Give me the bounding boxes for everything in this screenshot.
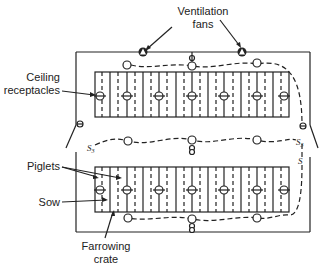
label-line: Farrowing — [78, 240, 134, 253]
left-door — [66, 125, 76, 148]
label-line: crate — [78, 253, 134, 266]
fan-icon — [238, 48, 247, 57]
switch-s3-right: S3 — [296, 137, 304, 148]
label-line: Ventilation — [170, 5, 236, 18]
label-line: receptacles — [0, 84, 60, 97]
farrowing-house-diagram: S3 S3 S Ventilation fans Ceiling recepta… — [0, 0, 327, 279]
ceiling-receptacles-top — [94, 92, 290, 100]
label-line: fans — [170, 18, 236, 31]
farrowing-crate-label: Farrowing crate — [78, 240, 134, 266]
floor-plan-drawing: S3 S3 S — [0, 0, 327, 279]
right-door — [310, 125, 318, 148]
switch-s3-left: S3 — [87, 143, 95, 154]
fan-icon — [139, 48, 148, 57]
label-line: Ceiling — [0, 71, 60, 84]
switch-s-single: S — [298, 156, 303, 166]
ventilation-fans-label: Ventilation fans — [170, 5, 236, 31]
piglets-label: Piglets — [0, 160, 60, 173]
sow-label: Sow — [0, 196, 60, 209]
ceiling-receptacles-bottom — [94, 186, 290, 194]
ceiling-receptacles-label: Ceiling receptacles — [0, 71, 60, 97]
